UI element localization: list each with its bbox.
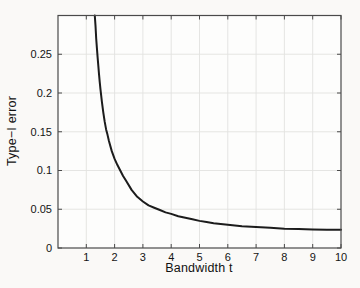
figure: 1234567891000.050.10.150.20.25 Type−I er…: [0, 0, 360, 288]
y-tick-label: 0.15: [31, 126, 52, 138]
y-tick-label: 0.05: [31, 203, 52, 215]
x-axis-label: Bandwidth t: [0, 261, 360, 275]
y-tick-label: 0.1: [37, 164, 52, 176]
y-tick-label: 0.25: [31, 48, 52, 60]
y-tick-label: 0.2: [37, 87, 52, 99]
y-axis-label: Type−I error: [5, 96, 19, 166]
y-tick-label: 0: [46, 242, 52, 254]
chart-canvas: 1234567891000.050.10.150.20.25: [0, 0, 360, 288]
